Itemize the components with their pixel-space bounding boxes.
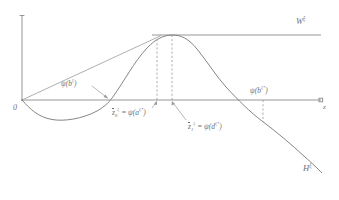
psi-b-close: ) (74, 79, 77, 88)
z0-subscript: 0 (115, 113, 117, 118)
figure-plot (0, 0, 339, 200)
z0-equation-close: ) (143, 108, 146, 117)
psi-b-label: ψ(bξ) (61, 79, 76, 87)
psi-b-star-open: ψ(b (250, 86, 261, 95)
z0-label: z0ξ = ψ(aξ*) (112, 108, 146, 119)
z0-base: z (112, 109, 115, 117)
z1-equation: = ψ(d (195, 122, 215, 131)
w-xi-curve-label: Wξ (296, 16, 305, 25)
z1-base: z (188, 123, 191, 131)
leader-z0-arrowhead (154, 101, 157, 106)
leader-z1 (173, 102, 186, 120)
x-axis-label: z (323, 104, 326, 111)
z1-equation-close: ) (219, 122, 222, 131)
h-xi-superscript: ξ (309, 162, 311, 168)
w-xi-superscript: ξ (303, 15, 305, 21)
z1-subscript: 1 (191, 127, 193, 132)
z1-label: z1ξ = ψ(dξ*) (188, 122, 222, 133)
figure-container: 0 z Wξ Hξ ψ(bξ) z0ξ = ψ(aξ*) z1ξ = ψ(dξ*… (0, 0, 339, 200)
psi-b-star-label: ψ(bξ*) (250, 86, 268, 94)
origin-label: 0 (13, 104, 17, 112)
z0-equation: = ψ(a (119, 108, 139, 117)
psi-b-star-close: ) (265, 86, 268, 95)
h-xi-curve-label: Hξ (303, 163, 311, 172)
psi-b-open: ψ(b (61, 79, 72, 88)
tangent-line-from-origin (22, 36, 161, 100)
